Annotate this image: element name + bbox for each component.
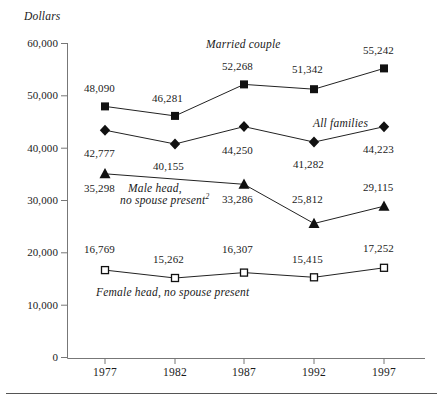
data-label-female-1997: 17,252 [363,242,394,254]
data-label-male-1977: 35,298 [84,182,115,194]
data-label-married-1982: 46,281 [152,92,183,104]
series-label-all-families: All families [313,117,368,130]
data-label-male-1992: 25,812 [292,193,323,205]
series-married-couple [101,64,388,120]
data-label-male-1987: 33,286 [222,193,253,205]
data-label-all-1992: 41,282 [293,158,324,170]
footer-divider [6,393,437,394]
data-label-all-1982: 40,155 [153,160,184,172]
data-label-married-1997: 55,242 [363,44,394,56]
series-label-male-head-line2: no spouse present2 [120,194,209,207]
data-label-married-1977: 48,090 [84,82,115,94]
series-label-female-head: Female head, no spouse present [96,286,249,299]
data-label-female-1987: 16,307 [222,243,253,255]
x-axis-ticks [105,359,384,365]
data-label-female-1992: 15,415 [292,253,323,265]
data-label-married-1992: 51,342 [292,63,323,75]
series-label-married-couple: Married couple [206,38,281,51]
footnote-marker-2: 2 [205,192,209,201]
series-female-head [102,264,388,281]
data-label-all-1997: 44,223 [363,143,394,155]
data-label-female-1977: 16,769 [84,243,115,255]
data-label-male-1997: 29,115 [363,181,393,193]
series-label-male-head-text: no spouse present [120,194,205,206]
data-label-female-1982: 15,262 [153,253,184,265]
data-label-all-1987: 44,250 [222,144,253,156]
y-axis-ticks [61,44,67,358]
line-chart: Dollars 60,000 50,000 40,000 30,000 20,0… [0,0,443,411]
data-label-all-1977: 42,777 [84,147,115,159]
data-label-married-1987: 52,268 [222,60,253,72]
